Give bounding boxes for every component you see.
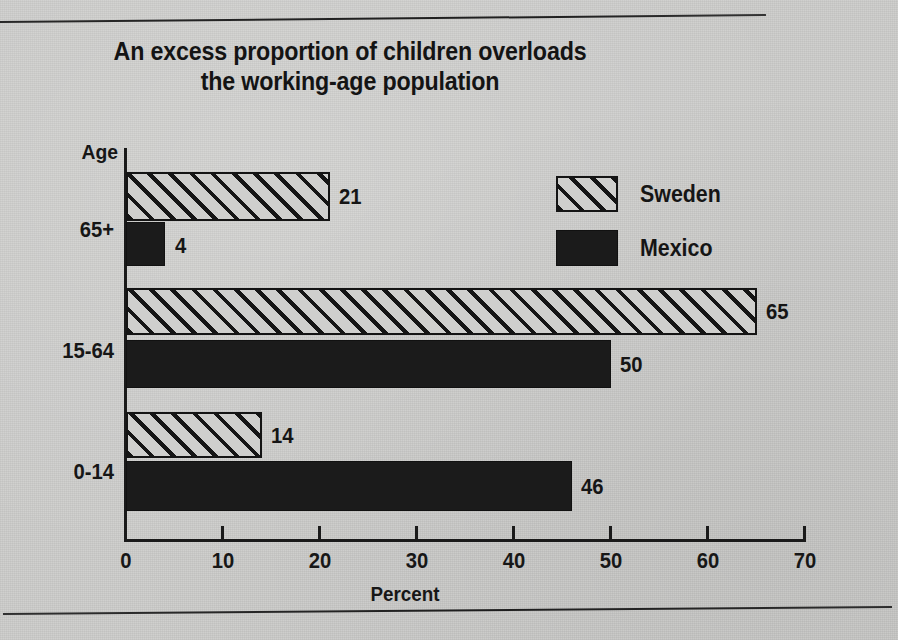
x-tick-60 — [706, 526, 709, 540]
bar-sweden-65plus[interactable] — [126, 172, 330, 221]
x-tick-label-70: 70 — [777, 548, 832, 574]
y-axis-title: Age — [19, 140, 118, 164]
bar-sweden-0-14[interactable] — [126, 412, 262, 458]
bar-value-sweden-15-64: 65 — [766, 299, 789, 325]
legend-entry-sweden[interactable]: Sweden — [556, 176, 727, 212]
x-tick-20 — [318, 526, 321, 540]
x-tick-label-10: 10 — [195, 548, 250, 574]
plot-area: Age 65+ 15-64 0-14 0 10 20 30 40 50 60 7… — [0, 0, 898, 640]
x-tick-10 — [221, 526, 224, 540]
x-axis-title: Percent — [24, 583, 785, 606]
y-tick-label-65plus: 65+ — [9, 217, 114, 243]
x-tick-label-0: 0 — [98, 548, 153, 574]
x-tick-label-30: 30 — [389, 548, 444, 574]
x-tick-70 — [803, 526, 806, 540]
x-tick-0 — [124, 526, 127, 540]
x-tick-label-40: 40 — [486, 548, 541, 574]
bar-value-sweden-0-14: 14 — [271, 423, 294, 449]
x-tick-label-60: 60 — [680, 548, 735, 574]
x-tick-label-20: 20 — [292, 548, 347, 574]
bar-sweden-15-64[interactable] — [126, 288, 757, 335]
legend-swatch-mexico-solid-icon — [556, 230, 618, 266]
legend-swatch-sweden-hatched-icon — [556, 176, 618, 212]
bar-value-sweden-65plus: 21 — [339, 184, 362, 210]
bar-mexico-15-64[interactable] — [126, 340, 611, 388]
legend-label-mexico: Mexico — [640, 235, 713, 262]
x-tick-40 — [512, 526, 515, 540]
x-tick-30 — [415, 526, 418, 540]
y-tick-label-0-14: 0-14 — [9, 459, 114, 485]
bar-mexico-0-14[interactable] — [126, 461, 572, 511]
bar-value-mexico-65plus: 4 — [175, 233, 186, 259]
legend-entry-mexico[interactable]: Mexico — [556, 230, 718, 266]
y-tick-label-15-64: 15-64 — [9, 338, 114, 364]
x-tick-50 — [609, 526, 612, 540]
legend-label-sweden: Sweden — [640, 181, 721, 208]
x-tick-label-50: 50 — [583, 548, 638, 574]
x-axis-line — [124, 539, 806, 542]
bar-value-mexico-15-64: 50 — [620, 352, 643, 378]
bar-mexico-65plus[interactable] — [126, 222, 165, 266]
bar-value-mexico-0-14: 46 — [581, 474, 604, 500]
